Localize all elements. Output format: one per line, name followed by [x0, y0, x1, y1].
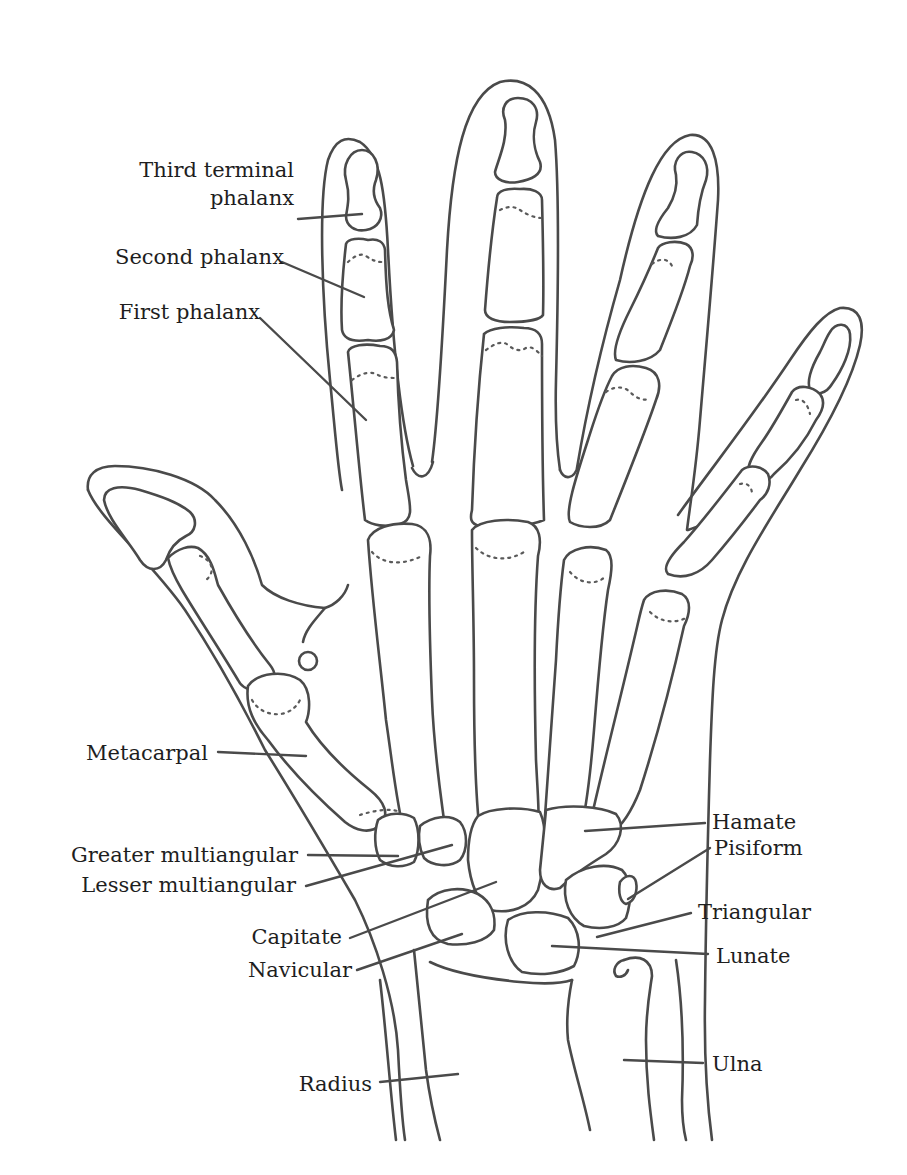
- label-first-phalanx: First phalanx: [60, 300, 260, 324]
- label-third-terminal-phalanx: Third terminal phalanx: [100, 158, 294, 210]
- metacarpal-bones: [368, 520, 689, 838]
- label-navicular: Navicular: [200, 958, 352, 982]
- middle-finger-bones: [471, 98, 544, 527]
- label-capitate: Capitate: [200, 925, 342, 949]
- leader-line-radius: [380, 1074, 458, 1082]
- label-second-phalanx: Second phalanx: [60, 245, 284, 269]
- label-greater-multiangular: Greater multiangular: [0, 843, 298, 867]
- label-radius: Radius: [260, 1072, 372, 1096]
- index-finger-bones: [341, 150, 410, 526]
- label-hamate: Hamate: [712, 810, 796, 834]
- leader-line-greater-multiangular: [308, 855, 398, 856]
- label-triangular: Triangular: [698, 900, 811, 924]
- label-third-terminal-phalanx-line2: phalanx: [100, 186, 294, 210]
- label-lunate: Lunate: [716, 944, 790, 968]
- forearm-bones: [380, 950, 686, 1140]
- label-metacarpal: Metacarpal: [40, 741, 208, 765]
- thumb-bones: [104, 487, 400, 830]
- label-third-terminal-phalanx-line1: Third terminal: [100, 158, 294, 182]
- label-pisiform: Pisiform: [714, 836, 803, 860]
- label-lesser-multiangular: Lesser multiangular: [0, 873, 296, 897]
- leader-line-pisiform: [628, 848, 710, 899]
- leader-line-ulna: [624, 1060, 703, 1063]
- label-ulna: Ulna: [712, 1052, 762, 1076]
